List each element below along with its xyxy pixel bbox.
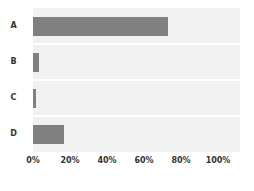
x-axis: 0%20%40%60%80%100% <box>0 155 254 175</box>
bar-b[interactable] <box>33 53 39 72</box>
bar-c[interactable] <box>33 89 36 108</box>
category-label-b: B <box>0 57 27 67</box>
category-label-d: D <box>0 129 27 139</box>
category-label-c: C <box>0 93 27 103</box>
category-band <box>33 44 240 80</box>
x-tick-label: 40% <box>97 155 116 167</box>
x-tick-label: 80% <box>171 155 190 167</box>
x-tick-label: 0% <box>26 155 40 167</box>
band-separator <box>33 79 240 81</box>
x-tick-label: 60% <box>134 155 153 167</box>
bar-a[interactable] <box>33 17 168 36</box>
bar-chart: ABCD 0%20%40%60%80%100% <box>0 0 254 191</box>
band-separator <box>33 115 240 117</box>
plot-area <box>33 8 240 152</box>
category-band <box>33 80 240 116</box>
bar-d[interactable] <box>33 125 64 144</box>
category-label-a: A <box>0 21 27 31</box>
band-separator <box>33 43 240 45</box>
x-tick-label: 100% <box>206 155 231 167</box>
x-tick-label: 20% <box>60 155 79 167</box>
